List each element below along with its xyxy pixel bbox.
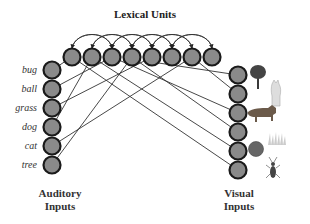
lexical-unit-node: [204, 49, 221, 66]
visual-node: [230, 162, 247, 179]
auditory-label-line1: Auditory: [39, 187, 82, 199]
visual-node: [230, 124, 247, 141]
lexical-unit-node: [104, 49, 121, 66]
word-label: bug: [22, 64, 37, 75]
tree-icon: [250, 65, 266, 89]
word-label: tree: [22, 159, 38, 170]
visual-node: [230, 67, 247, 84]
lexical-unit-node: [184, 49, 201, 66]
visual-label-line2: Inputs: [224, 200, 255, 212]
dog-icon: [248, 105, 276, 122]
visual-node: [230, 105, 247, 122]
grass-icon: [268, 132, 286, 145]
lexical-units: [64, 49, 221, 66]
lexical-unit-node: [124, 49, 141, 66]
auditory-node: [44, 157, 61, 174]
word-label: cat: [25, 140, 37, 151]
word-label: ball: [21, 83, 37, 94]
auditory-node: [44, 100, 61, 117]
lexical-recurrent-arcs: [72, 35, 212, 49]
network-diagram: Lexical Units: [0, 0, 310, 224]
auditory-label-line2: Inputs: [45, 200, 76, 212]
connection-lines: [52, 57, 238, 170]
visual-inputs: [230, 67, 247, 179]
auditory-node: [44, 138, 61, 155]
auditory-node: [44, 119, 61, 136]
lexical-unit-node: [84, 49, 101, 66]
visual-node: [230, 143, 247, 160]
word-label: grass: [15, 102, 37, 113]
bug-icon: [266, 157, 280, 178]
visual-label-line1: Visual: [224, 187, 254, 199]
auditory-node: [44, 81, 61, 98]
visual-node: [230, 86, 247, 103]
lexical-units-title: Lexical Units: [114, 8, 177, 20]
word-label: dog: [22, 121, 37, 132]
auditory-node: [44, 62, 61, 79]
auditory-inputs: bug ball grass dog cat tree: [15, 62, 60, 174]
ball-icon: [249, 142, 264, 157]
lexical-unit-node: [64, 49, 81, 66]
lexical-unit-node: [164, 49, 181, 66]
lexical-unit-node: [144, 49, 161, 66]
cat-icon: [271, 80, 280, 106]
